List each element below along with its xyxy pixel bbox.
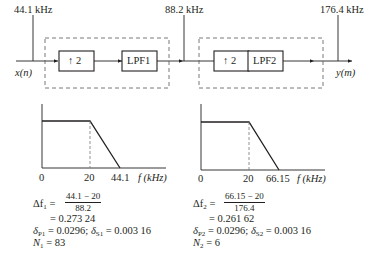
calc1-result: = 0.273 24: [50, 214, 95, 225]
input-signal-label: x(n): [15, 68, 32, 79]
calc1-fraction: 44.1 − 20 88.2: [65, 192, 101, 213]
lpf1-label: LPF1: [127, 56, 150, 67]
chart1-xlabel: f (kHz): [138, 173, 167, 184]
chart1-tick-0: 0: [39, 173, 44, 184]
lpf2-label: LPF2: [253, 56, 276, 67]
lpf1-response-chart: [42, 104, 166, 168]
chart2-tick-6615: 66.15: [266, 174, 290, 185]
calc2-result: = 0.261 62: [209, 214, 254, 225]
chart2-xlabel: f (kHz): [297, 174, 326, 185]
calc1-order: N1 = 83: [33, 238, 65, 250]
upsampler1-label: ↑ 2: [68, 56, 81, 67]
chart1-tick-20: 20: [84, 173, 95, 184]
mid-rate-label: 88.2 kHz: [165, 5, 204, 16]
output-signal-label: y(m): [336, 68, 355, 79]
calc1-delta-f: Δf1 =: [33, 199, 55, 211]
chart2-tick-20: 20: [243, 174, 254, 185]
calc2-fraction: 66.15 − 20 176.4: [224, 192, 265, 213]
chart1-tick-441: 44.1: [111, 173, 129, 184]
upsampler2-label: ↑ 2: [223, 56, 236, 67]
calc2-order: N2 = 6: [193, 238, 220, 250]
input-rate-label: 44.1 kHz: [14, 5, 53, 16]
chart2-tick-0: 0: [198, 174, 203, 185]
output-rate-label: 176.4 kHz: [320, 5, 364, 16]
lpf2-response-chart: [201, 104, 325, 170]
calc2-delta-f: Δf2 =: [193, 199, 215, 211]
